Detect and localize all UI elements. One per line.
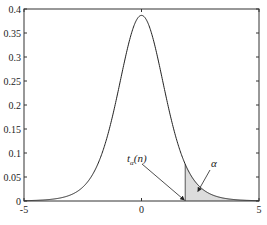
critical-value-label: tα(n) [127, 152, 147, 167]
y-tick-label: 0.3 [9, 52, 22, 63]
x-tick-label: -5 [20, 204, 28, 215]
alpha-label: α [211, 157, 217, 169]
density-curve [24, 15, 259, 200]
x-tick-label: 5 [257, 204, 262, 215]
x-tick-label: 0 [139, 204, 144, 215]
y-tick-label: 0.15 [4, 124, 22, 135]
critical-value-annotation: tα(n) [127, 152, 184, 200]
alpha-annotation: α [198, 157, 217, 191]
y-tick-label: 0.2 [9, 100, 22, 111]
plot-frame [24, 9, 259, 201]
y-tick-label: 0.1 [9, 148, 22, 159]
critical-value-arrow [142, 164, 184, 200]
y-tick-label: 0.35 [4, 28, 22, 39]
alpha-arrow [198, 170, 210, 191]
t-distribution-chart: 00.050.10.150.20.250.30.350.4-505 tα(n)α [0, 0, 267, 225]
y-tick-label: 0.25 [4, 76, 22, 87]
y-tick-label: 0.4 [9, 4, 22, 15]
y-tick-label: 0.05 [4, 172, 22, 183]
